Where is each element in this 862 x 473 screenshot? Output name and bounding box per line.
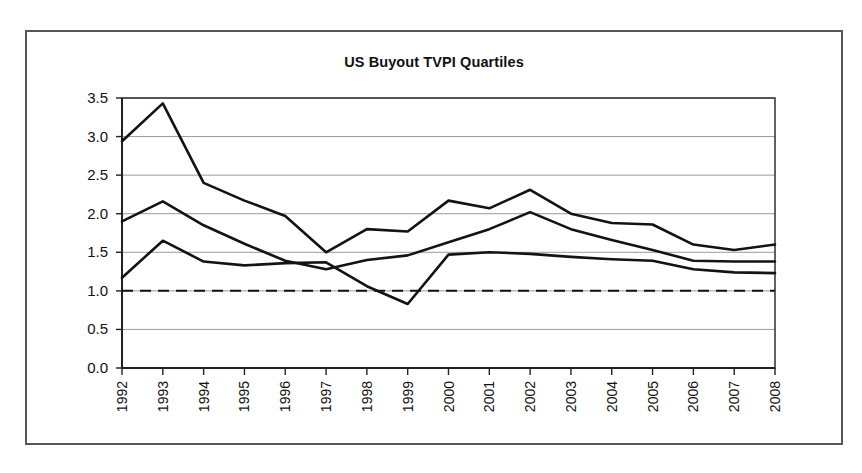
- x-axis-tick-label: 2006: [685, 381, 701, 412]
- x-axis-tick-label: 2001: [481, 381, 497, 412]
- x-axis-tick-label: 1993: [155, 381, 171, 412]
- chart-frame: US Buyout TVPI Quartiles 0.00.51.01.52.0…: [25, 30, 843, 445]
- x-axis-tick-label: 2004: [604, 381, 620, 412]
- y-axis-tick-label: 1.0: [62, 282, 108, 299]
- y-axis-tick-label: 0.5: [62, 320, 108, 337]
- y-axis-tick-label: 2.0: [62, 205, 108, 222]
- x-axis-tick-label: 1997: [318, 381, 334, 412]
- x-tick-marks: [122, 368, 775, 375]
- y-axis-tick-label: 0.0: [62, 359, 108, 376]
- x-axis-tick-label: 2005: [645, 381, 661, 412]
- series-line-upper-quartile: [122, 103, 775, 252]
- x-axis-tick-label: 2002: [522, 381, 538, 412]
- x-axis-tick-label: 1995: [236, 381, 252, 412]
- x-axis-tick-label: 2008: [767, 381, 783, 412]
- x-axis-tick-label: 1999: [400, 381, 416, 412]
- x-axis-tick-label: 1998: [359, 381, 375, 412]
- series-line-lower-quartile: [122, 241, 775, 304]
- line-chart-canvas: [27, 32, 845, 447]
- x-axis-tick-label: 2000: [441, 381, 457, 412]
- y-axis-tick-label: 1.5: [62, 243, 108, 260]
- x-axis-tick-label: 1994: [196, 381, 212, 412]
- y-axis-tick-label: 3.0: [62, 128, 108, 145]
- gridlines: [122, 98, 775, 329]
- x-axis-tick-label: 1992: [114, 381, 130, 412]
- x-axis-tick-label: 1996: [277, 381, 293, 412]
- y-axis-tick-label: 2.5: [62, 166, 108, 183]
- x-axis-tick-label: 2007: [726, 381, 742, 412]
- x-axis-tick-label: 2003: [563, 381, 579, 412]
- y-axis-tick-label: 3.5: [62, 89, 108, 106]
